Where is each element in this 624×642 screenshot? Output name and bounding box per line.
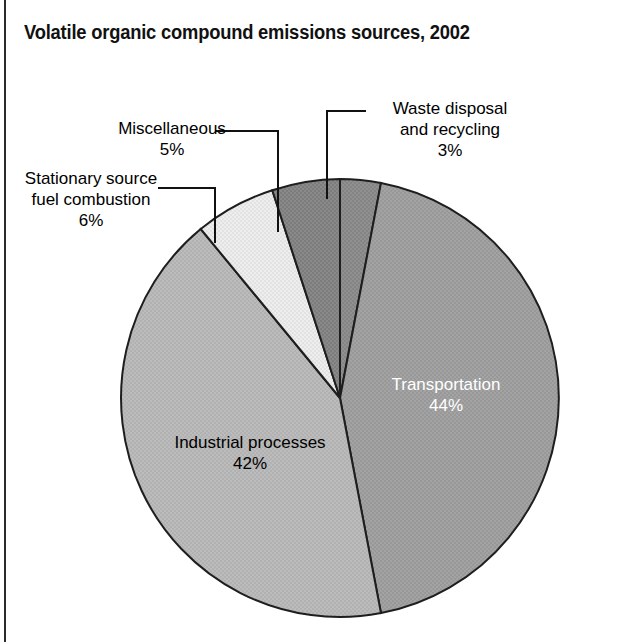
slice-label-industrial-processes-name: Industrial processes	[150, 432, 350, 453]
chart-page: Volatile organic compound emissions sour…	[0, 0, 624, 642]
slice-label-transportation-percent: 44%	[356, 395, 536, 416]
slice-label-transportation: Transportation 44%	[356, 374, 536, 416]
callout-miscellaneous-name: Miscellaneous	[84, 118, 260, 139]
callout-stationary-source-percent: 6%	[8, 210, 174, 231]
slice-label-transportation-name: Transportation	[356, 374, 536, 395]
callout-miscellaneous-percent: 5%	[84, 139, 260, 160]
slice-label-industrial-processes-percent: 42%	[150, 453, 350, 474]
callout-stationary-source: Stationary source fuel combustion 6%	[8, 168, 174, 231]
slice-label-industrial-processes: Industrial processes 42%	[150, 432, 350, 474]
callout-waste-disposal-name-line2: and recycling	[370, 119, 530, 140]
callout-waste-disposal-percent: 3%	[370, 140, 530, 161]
callout-waste-disposal-name-line1: Waste disposal	[370, 98, 530, 119]
callout-miscellaneous: Miscellaneous 5%	[84, 118, 260, 160]
callout-stationary-source-name-line1: Stationary source	[8, 168, 174, 189]
pie-chart-graphic	[0, 0, 624, 642]
callout-waste-disposal: Waste disposal and recycling 3%	[370, 98, 530, 161]
callout-stationary-source-name-line2: fuel combustion	[8, 189, 174, 210]
